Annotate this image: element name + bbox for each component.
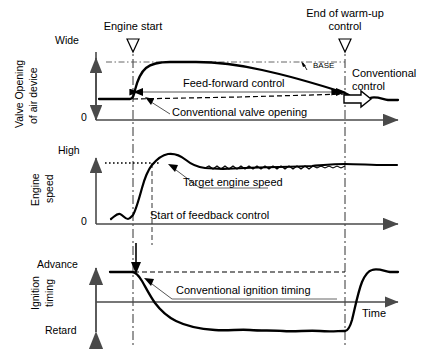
feed-forward-control-label: Feed-forward control [183,78,285,90]
valve-opening-y-axis-label-line2: of air device [28,67,39,124]
conventional-ignition-timing-label: Conventional ignition timing [176,285,311,297]
ignition-timing-tick-advance: Advance [37,259,78,270]
start-of-feedback-control-label: Start of feedback control [150,210,269,222]
target-engine-speed-label: Target engine speed [183,177,283,189]
base-annotation-label: BASE [313,62,334,70]
engine-speed-y-axis-label-line1: Engine [30,173,41,206]
ignition-timing-y-axis-label-line2: timing [44,279,55,307]
valve-opening-y-axis-label-line1: Valve Opening [14,60,25,128]
event-markers [127,39,351,52]
ignition-timing-tick-retard: Retard [45,325,77,336]
conventional-valve-opening-label: Conventional valve opening [172,107,307,119]
engine-speed-tick-zero: 0 [81,216,87,227]
engine-speed-y-axis-label-line2: speed [44,174,55,203]
conventional-valve-opening-curve [133,94,345,99]
warmup-control-figure: Engine start End of warm-up control Valv… [0,0,431,359]
engine-start-marker-label: Engine start [97,21,169,33]
conventional-control-label-line2: control [352,81,385,93]
valve-opening-tick-zero: 0 [81,112,87,123]
ignition-timing-y-axis-label-line1: Ignition [30,276,41,310]
end-of-warmup-marker-label-line2: control [291,21,399,33]
valve-opening-tick-wide: Wide [55,35,79,46]
conventional-valve-opening-leader [145,97,170,114]
time-axis-label: Time [362,308,386,320]
engine-speed-tick-high: High [58,145,80,156]
panel-engine-speed [96,154,398,245]
end-of-warmup-marker-triangle [339,39,351,52]
engine-start-marker-triangle [127,39,139,52]
ignition-timing-curve [110,269,398,331]
end-of-warmup-marker-label-line1: End of warm-up [291,8,399,20]
conventional-control-label-line1: Conventional [352,68,416,80]
